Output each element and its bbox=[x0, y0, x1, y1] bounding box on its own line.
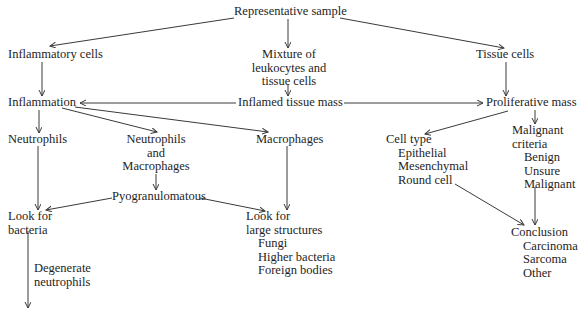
node-title: Look for bbox=[246, 210, 335, 224]
node-item: Sarcoma bbox=[511, 253, 578, 267]
node-mixture: Mixture of leukocytes and tissue cells bbox=[246, 48, 332, 89]
node-look-for-bacteria: Look for bacteria bbox=[8, 210, 52, 237]
edge-sample-to-inflammatory-cells bbox=[50, 18, 234, 46]
node-representative-sample: Representative sample bbox=[234, 5, 347, 19]
node-look-for-large-structures: Look for large structures Fungi Higher b… bbox=[246, 210, 335, 278]
node-malignant-criteria: Malignant criteria Benign Unsure Maligna… bbox=[512, 124, 575, 192]
node-label: Proliferative mass bbox=[486, 95, 577, 109]
node-label: Tissue cells bbox=[476, 47, 534, 61]
node-title: Cell type bbox=[386, 133, 468, 147]
edge-label-line: neutrophils bbox=[34, 276, 91, 290]
node-item: Carcinoma bbox=[511, 240, 578, 254]
node-inflammation: Inflammation bbox=[8, 96, 76, 110]
edge-pyogranulomatous-to-bacteria bbox=[46, 198, 112, 210]
node-item: Other bbox=[511, 267, 578, 281]
node-title: large structures bbox=[246, 224, 335, 238]
node-inflamed-tissue-mass: Inflamed tissue mass bbox=[238, 96, 343, 110]
node-item: Malignant bbox=[512, 178, 575, 192]
node-item: Benign bbox=[512, 151, 575, 165]
node-item: Fungi bbox=[246, 237, 335, 251]
node-label-line: Neutrophils bbox=[118, 133, 194, 147]
flowchart-canvas: Representative sample Inflammatory cells… bbox=[0, 0, 584, 311]
edge-inflammation-to-macrophages bbox=[75, 107, 268, 132]
node-label-line: Look for bbox=[8, 210, 52, 224]
node-conclusion: Conclusion Carcinoma Sarcoma Other bbox=[511, 226, 578, 280]
node-proliferative-mass: Proliferative mass bbox=[486, 96, 577, 110]
node-label-line: bacteria bbox=[8, 224, 52, 238]
node-cell-type: Cell type Epithelial Mesenchymal Round c… bbox=[386, 133, 468, 187]
node-title: Malignant bbox=[512, 124, 575, 138]
node-label: Pyogranulomatous bbox=[112, 189, 206, 203]
node-label: Inflammation bbox=[8, 95, 76, 109]
edge-proliferative-to-cell-type bbox=[425, 111, 508, 134]
node-label-line: Macrophages bbox=[118, 160, 194, 174]
node-macrophages: Macrophages bbox=[256, 133, 323, 147]
node-item: Round cell bbox=[386, 174, 468, 188]
node-tissue-cells: Tissue cells bbox=[476, 48, 534, 62]
edge-label-line: Degenerate bbox=[34, 262, 91, 276]
node-label-line: and bbox=[118, 147, 194, 161]
node-item: Unsure bbox=[512, 165, 575, 179]
node-item: Epithelial bbox=[386, 147, 468, 161]
node-title: Conclusion bbox=[511, 226, 578, 240]
node-pyogranulomatous: Pyogranulomatous bbox=[112, 190, 206, 204]
node-inflammatory-cells: Inflammatory cells bbox=[8, 48, 103, 62]
node-label-line: leukocytes and bbox=[246, 62, 332, 76]
node-label: Inflammatory cells bbox=[8, 47, 103, 61]
node-item: Foreign bodies bbox=[246, 264, 335, 278]
edge-sample-to-tissue-cells bbox=[340, 18, 504, 48]
node-label: Inflamed tissue mass bbox=[238, 95, 343, 109]
node-neutrophils: Neutrophils bbox=[8, 133, 67, 147]
node-label-line: tissue cells bbox=[246, 75, 332, 89]
node-item: Higher bacteria bbox=[246, 251, 335, 265]
node-label: Neutrophils bbox=[8, 132, 67, 146]
node-title: criteria bbox=[512, 138, 575, 152]
node-label: Macrophages bbox=[256, 132, 323, 146]
node-neutrophils-and-macrophages: Neutrophils and Macrophages bbox=[118, 133, 194, 174]
node-label: Representative sample bbox=[234, 4, 347, 18]
node-item: Mesenchymal bbox=[386, 160, 468, 174]
node-label-line: Mixture of bbox=[246, 48, 332, 62]
edge-label-degenerate-neutrophils: Degenerate neutrophils bbox=[34, 262, 91, 289]
